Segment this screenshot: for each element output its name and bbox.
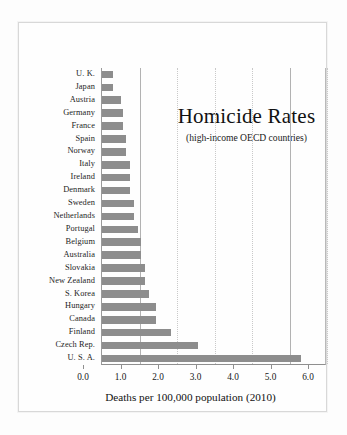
bar-row [102,326,325,339]
category-label: Portugal [66,223,95,236]
category-label: Netherlands [53,210,95,223]
bar [102,238,141,246]
bar [102,187,130,195]
category-label: U. K. [76,68,95,81]
bar-row [102,288,325,301]
bar-row [102,262,325,275]
bar-series [102,68,325,364]
category-label: U. S. A. [67,352,95,365]
plot-area [101,68,326,365]
bar [102,277,145,285]
gridline-6 [327,68,328,364]
x-axis-tick [308,365,309,369]
x-axis-tick-label: 1.0 [101,372,141,382]
bar-row [102,275,325,288]
x-axis-tick [196,365,197,369]
bar [102,71,113,79]
category-label: Hungary [65,300,95,313]
bar-row [102,68,325,81]
x-axis-tick-label: 4.0 [213,372,253,382]
x-axis-tick-label: 3.0 [176,372,216,382]
page-frame: Homicide Rates (high-income OECD countri… [18,22,327,412]
bar-row [102,339,325,352]
bar-row [102,107,325,120]
bar [102,122,123,130]
bar-row [102,249,325,262]
category-label: Canada [69,313,95,326]
bar-row [102,197,325,210]
x-axis-title: Deaths per 100,000 population (2010) [37,391,344,403]
bar [102,329,171,337]
bar [102,316,156,324]
x-axis-tick-label: 5.0 [251,372,291,382]
bar-row [102,223,325,236]
bar [102,355,301,363]
bar-row [102,300,325,313]
bar-row [102,133,325,146]
category-label: Denmark [63,184,95,197]
category-label: Austria [70,94,95,107]
category-label: S. Korea [65,288,95,301]
bar-row [102,171,325,184]
x-axis-tick [271,365,272,369]
bar-row [102,94,325,107]
bar-row [102,184,325,197]
x-axis-tick-label: 6.0 [288,372,328,382]
category-label: Belgium [65,236,95,249]
bar [102,135,126,143]
x-axis-tick [83,365,84,369]
bar [102,303,156,311]
category-label: Italy [79,158,95,171]
bar [102,174,130,182]
bar-row [102,120,325,133]
bar-row [102,81,325,94]
bar [102,200,134,208]
bar-row [102,158,325,171]
category-label: Finland [69,326,95,339]
bar [102,342,198,350]
bar [102,226,138,234]
category-label: Spain [75,133,95,146]
category-label: Norway [67,145,95,158]
category-label: Sweden [68,197,95,210]
x-axis-tick-label: 0.0 [63,372,103,382]
bar [102,251,141,259]
category-label: France [72,120,95,133]
chart-page: Homicide Rates (high-income OECD countri… [0,0,347,435]
bar [102,84,113,92]
bar [102,264,145,272]
category-label: Japan [75,81,95,94]
bar-row [102,236,325,249]
bar-row [102,313,325,326]
x-axis-tick-label: 2.0 [138,372,178,382]
bar [102,109,123,117]
x-axis-tick [121,365,122,369]
bar-row [102,352,325,365]
bar [102,290,149,298]
bar [102,213,134,221]
category-label: Germany [63,107,95,120]
category-axis-labels: U. K.JapanAustriaGermanyFranceSpainNorwa… [39,68,98,365]
category-label: Ireland [71,171,95,184]
bar [102,148,126,156]
x-axis-tick [158,365,159,369]
category-label: New Zealand [49,275,95,288]
category-label: Australia [63,249,95,262]
bar [102,161,130,169]
bar [102,96,121,104]
category-label: Slovakia [65,262,95,275]
category-label: Czech Rep. [55,339,95,352]
bar-row [102,145,325,158]
bar-row [102,210,325,223]
x-axis-tick [233,365,234,369]
